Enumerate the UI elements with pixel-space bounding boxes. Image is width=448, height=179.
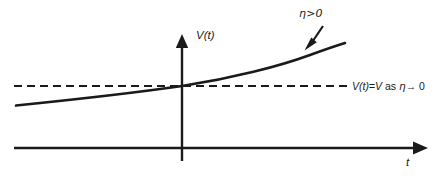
eta-positive-text: η>0 [299,7,323,20]
v-axis [176,34,188,161]
t-axis-label: t [406,157,409,169]
asymptote-label-eta: η [399,80,406,92]
eta-positive-label: η>0 [299,8,323,19]
t-axis [14,142,428,155]
eta-pointer-arrow [305,26,324,51]
asymptote-label-v: V [375,80,382,92]
v-axis-arrowhead [176,34,188,48]
asymptote-label-as: as [385,80,396,92]
asymptote-label-arrow: → [406,80,417,92]
eta-limit-diagram: η>0 V(t) t V(t)=V as η→ 0 [0,0,448,179]
v-axis-label: V(t) [196,30,215,42]
asymptote-label-zero: 0 [419,80,425,92]
v-of-t-curve [16,43,345,106]
asymptote-label: V(t)=V as η→ 0 [352,81,425,92]
t-axis-arrowhead [413,142,428,155]
asymptote-label-vt: V(t) [352,80,369,92]
